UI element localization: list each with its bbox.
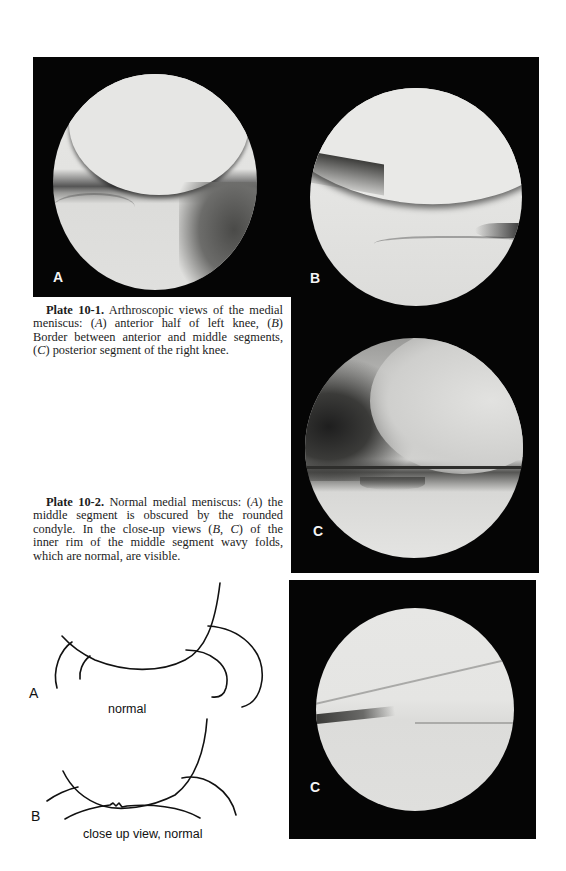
sketch-label-a: A <box>29 685 38 701</box>
arthroscopic-view-b <box>310 88 522 306</box>
sketch-b-closeup <box>47 719 236 819</box>
meniscus-fold <box>316 705 396 723</box>
condyle-edge <box>316 654 514 707</box>
arthroscopic-view-c-closeup <box>316 608 514 811</box>
arthroscopic-view-c-posterior <box>305 338 523 558</box>
sketch-a-normal <box>55 583 262 707</box>
panel-label-c-middle: C <box>313 524 323 538</box>
meniscus-edge <box>305 466 523 469</box>
dark-notch <box>475 223 522 238</box>
line-sketch-diagrams <box>0 0 290 871</box>
sketch-caption-a: normal <box>108 702 146 716</box>
meniscus-fold <box>360 477 425 490</box>
meniscus-fold <box>374 236 522 255</box>
sketch-label-b: B <box>31 808 40 824</box>
meniscus-rim <box>415 722 514 724</box>
sketch-caption-b: close up view, normal <box>83 827 203 841</box>
panel-label-c-bottom: C <box>310 780 320 794</box>
panel-label-b: B <box>310 271 320 285</box>
